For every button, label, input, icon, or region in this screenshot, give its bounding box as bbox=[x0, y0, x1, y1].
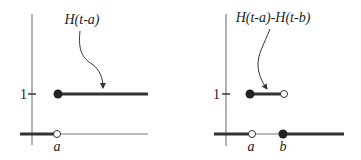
right-open-circle-b bbox=[281, 91, 288, 98]
right-plot: 1 H(t-a)-H(t-b) a b bbox=[213, 10, 344, 154]
left-plot: 1 H(t-a) a bbox=[20, 12, 148, 154]
right-callout-arrow bbox=[258, 29, 270, 89]
left-y-tick-label: 1 bbox=[20, 87, 27, 102]
right-x-tick-label-a: a bbox=[248, 139, 255, 154]
left-x-tick-label-a: a bbox=[54, 139, 61, 154]
left-open-circle bbox=[54, 131, 61, 138]
heaviside-diagram: 1 H(t-a) a 1 H(t-a)-H(t-b) a b bbox=[0, 0, 361, 160]
left-function-label: H(t-a) bbox=[64, 12, 100, 28]
right-y-tick-label: 1 bbox=[213, 87, 220, 102]
left-callout-arrow bbox=[80, 31, 104, 88]
right-open-circle-a bbox=[249, 131, 256, 138]
right-filled-circle-a bbox=[246, 90, 255, 99]
right-x-tick-label-b: b bbox=[280, 139, 287, 154]
left-filled-circle bbox=[54, 90, 63, 99]
right-filled-circle-b bbox=[279, 130, 288, 139]
right-function-label: H(t-a)-H(t-b) bbox=[235, 10, 311, 26]
